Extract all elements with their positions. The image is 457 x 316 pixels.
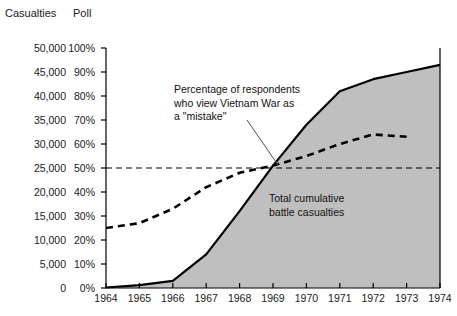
chart-figure: Casualties Poll 05,00010,00015,00020,000… — [0, 0, 457, 316]
plot-area — [0, 0, 457, 316]
poll-annotation: Percentage of respondents who view Vietn… — [174, 83, 300, 124]
area-annotation: Total cumulative battle casualties — [269, 192, 344, 219]
annotation-leader-line — [247, 120, 278, 165]
